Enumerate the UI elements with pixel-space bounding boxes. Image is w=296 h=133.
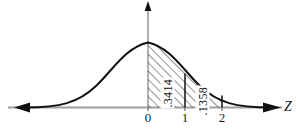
tick-label-1: 1 xyxy=(175,110,195,126)
area-label-1-2-text: .1358 xyxy=(196,86,210,117)
arrow-left-icon xyxy=(14,103,30,113)
tick-label-2: 2 xyxy=(212,110,232,126)
normal-curve-figure: 0 1 2 Z .3414 .1358 xyxy=(0,0,296,133)
tick-label-0: 0 xyxy=(138,110,158,126)
arrow-up-icon xyxy=(145,1,152,11)
shaded-region-0-1 xyxy=(25,43,271,108)
area-label-0-1: .3414 xyxy=(161,61,176,109)
arrow-right-icon xyxy=(263,103,281,113)
area-label-0-1-text: .3414 xyxy=(161,78,175,109)
x-axis-label: Z xyxy=(284,99,292,115)
area-label-1-2: .1358 xyxy=(196,69,211,117)
